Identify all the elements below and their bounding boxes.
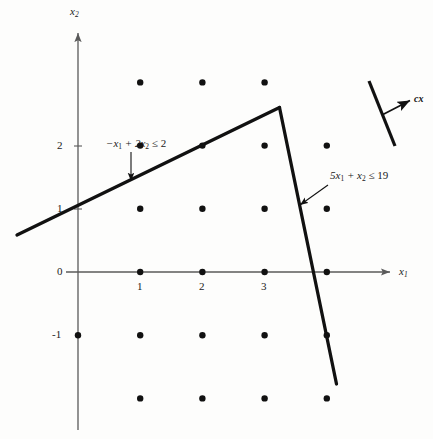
lattice-point	[137, 79, 143, 85]
x-axis-label: x1	[399, 266, 408, 278]
constraint-1-label: −x1 + 2x2 ≤ 2	[106, 138, 166, 150]
constraint-line-2	[280, 108, 337, 385]
lattice-point	[261, 395, 267, 401]
x-tick-label-1: 1	[137, 281, 143, 292]
lattice-point	[199, 142, 205, 148]
lattice-point	[199, 332, 205, 338]
c1-p0: −x	[106, 137, 118, 149]
lattice-point	[137, 206, 143, 212]
c2-p2: + x	[344, 169, 362, 181]
y-axis-label: x2	[70, 6, 79, 18]
lattice-point	[324, 395, 330, 401]
objective-direction-arrow	[382, 101, 410, 116]
objective-vector-label: cx	[414, 93, 423, 104]
lattice-point	[75, 332, 81, 338]
lattice-point	[261, 79, 267, 85]
lattice-point	[137, 395, 143, 401]
lattice-point	[137, 269, 143, 275]
lattice-point	[199, 395, 205, 401]
lattice-point	[199, 269, 205, 275]
c2-p0: 5x	[330, 169, 340, 181]
constraint-line-1	[17, 108, 280, 236]
x-axis-label-sub: 1	[404, 270, 408, 279]
c1-p4: ≤ 2	[149, 137, 166, 149]
lattice-point	[261, 206, 267, 212]
lattice-point	[137, 332, 143, 338]
y-axis-label-sub: 2	[75, 10, 79, 19]
objective-isoline	[369, 81, 395, 146]
axis-lines	[66, 33, 390, 430]
lattice-point	[324, 269, 330, 275]
c2-p4: ≤ 19	[366, 169, 389, 181]
constraint-2-leader-arrow	[300, 185, 328, 205]
integer-program-figure: x2 x1 2 1 0 -1 1 2 3 −x1 + 2x2 ≤ 2 5x1 +…	[0, 0, 433, 439]
lattice-point	[199, 206, 205, 212]
y-tick-label-neg1: -1	[52, 329, 61, 340]
lattice-point	[324, 142, 330, 148]
objective-direction-group	[369, 81, 410, 146]
x-tick-label-2: 2	[199, 281, 205, 292]
y-tick-label-1: 1	[57, 203, 63, 214]
y-tick-label-0: 0	[57, 266, 63, 277]
lattice-point	[324, 206, 330, 212]
plot-canvas	[0, 0, 433, 439]
lattice-point	[324, 332, 330, 338]
lattice-point	[261, 142, 267, 148]
constraint-2-label: 5x1 + x2 ≤ 19	[330, 170, 388, 182]
lattice-point	[261, 332, 267, 338]
lattice-point-group	[75, 79, 330, 401]
lattice-point	[199, 79, 205, 85]
y-tick-label-2: 2	[57, 140, 63, 151]
c1-p2: + 2x	[122, 137, 145, 149]
lattice-point	[261, 269, 267, 275]
x-tick-label-3: 3	[261, 281, 267, 292]
